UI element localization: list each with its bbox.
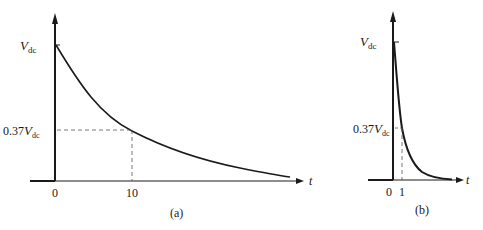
vdc-label-a: Vdc	[20, 38, 36, 55]
x-tick-1-b: 1	[399, 185, 405, 199]
decay-curve-a	[56, 45, 290, 177]
figure-a: Vdc 0.37Vdc 0 10 t (a)	[3, 13, 313, 220]
x-tick-0-b: 0	[386, 185, 392, 199]
x-tick-10-a: 10	[126, 186, 138, 200]
y-axis-arrow-icon-a	[52, 13, 58, 24]
x-axis-label-a: t	[309, 174, 313, 188]
x-axis-arrow-icon-a	[296, 178, 304, 184]
vdc-037-label-b: 0.37Vdc	[353, 121, 390, 138]
x-axis-arrow-icon-b	[456, 177, 464, 183]
vdc-037-label-a: 0.37Vdc	[3, 123, 40, 140]
x-tick-0-a: 0	[52, 186, 58, 200]
vdc-label-b: Vdc	[360, 34, 376, 51]
figure-b: Vdc 0.37Vdc 0 1 t (b)	[353, 11, 470, 217]
caption-b: (b)	[415, 203, 429, 217]
decay-curve-b	[394, 42, 452, 180]
diagram-canvas: Vdc 0.37Vdc 0 10 t (a) Vdc 0.37Vdc 0 1 t…	[0, 0, 483, 230]
caption-a: (a)	[170, 206, 183, 220]
x-axis-label-b: t	[466, 173, 470, 187]
y-axis-arrow-icon-b	[390, 11, 396, 22]
